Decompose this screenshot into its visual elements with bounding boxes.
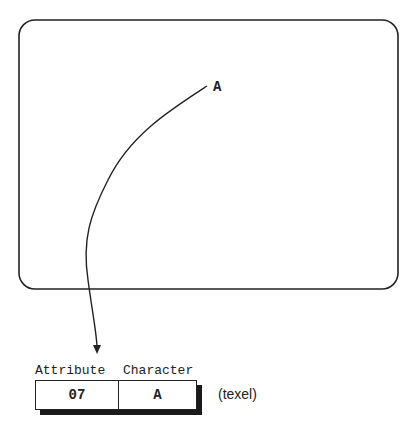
attribute-header: Attribute	[35, 363, 105, 378]
character-cell: A	[119, 381, 196, 409]
screen-frame	[19, 20, 398, 289]
texel-caption: (texel)	[218, 386, 257, 402]
diagram: A Attribute Character 07 A (texel)	[0, 0, 414, 430]
screen-character: A	[213, 79, 221, 95]
attribute-cell: 07	[36, 381, 119, 409]
character-header: Character	[123, 363, 193, 378]
arrowhead-icon	[93, 345, 101, 354]
mapping-arrow-curve	[86, 86, 207, 346]
texel-box: 07 A	[35, 380, 197, 410]
